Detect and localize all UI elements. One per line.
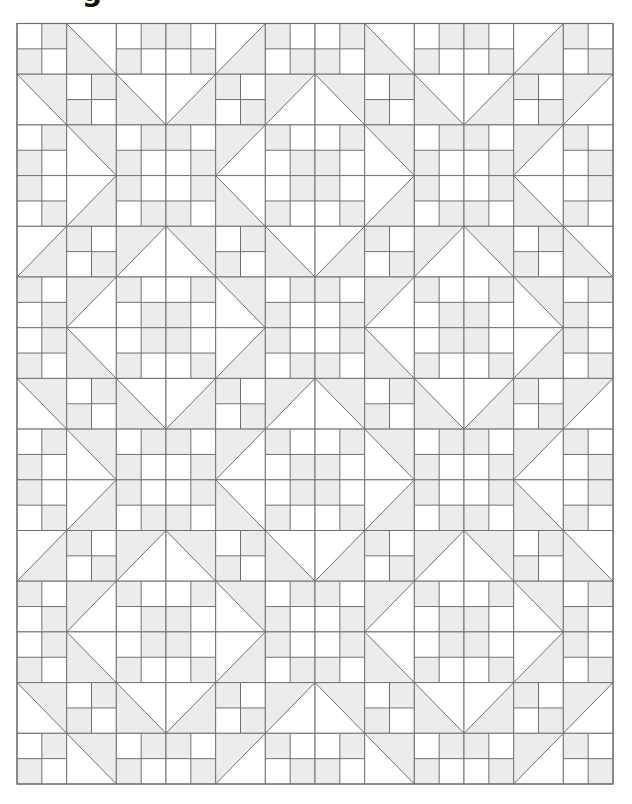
quilt-block	[265, 683, 315, 734]
quilt-block	[563, 733, 613, 784]
quilt-block	[315, 328, 365, 379]
quilt-block	[17, 176, 67, 227]
quilt-block	[414, 733, 464, 784]
quilt-block	[414, 125, 464, 176]
quilt-block	[464, 429, 514, 480]
quilt-block	[414, 480, 464, 531]
quilt-block	[67, 328, 117, 379]
quilt-block	[17, 378, 67, 429]
quilt-block	[116, 429, 166, 480]
quilt-block	[464, 733, 514, 784]
quilt-block	[166, 683, 216, 734]
quilt-block	[17, 733, 67, 784]
quilt-block	[216, 24, 266, 75]
quilt-block	[265, 480, 315, 531]
quilt-block	[17, 277, 67, 328]
quilt-block	[464, 226, 514, 277]
quilt-block	[315, 74, 365, 125]
quilt-block	[563, 581, 613, 632]
quilt-block	[563, 632, 613, 683]
quilt-block	[514, 378, 564, 429]
quilt-block	[365, 632, 415, 683]
quilt-block	[563, 226, 613, 277]
quilt-block	[67, 531, 117, 582]
quilt-block	[365, 125, 415, 176]
quilt-block	[265, 328, 315, 379]
quilt-block	[315, 277, 365, 328]
quilt-block	[563, 176, 613, 227]
quilt-block	[216, 125, 266, 176]
quilt-block	[67, 683, 117, 734]
quilt-block	[414, 277, 464, 328]
quilt-block	[67, 226, 117, 277]
quilt-block	[166, 480, 216, 531]
quilt-block	[315, 632, 365, 683]
quilt-block	[216, 632, 266, 683]
quilt-block	[464, 24, 514, 75]
quilt-block	[365, 277, 415, 328]
quilt-block	[315, 378, 365, 429]
quilt-block	[365, 226, 415, 277]
quilt-block	[17, 581, 67, 632]
quilt-block	[414, 176, 464, 227]
quilt-block	[265, 531, 315, 582]
quilt-block	[414, 378, 464, 429]
quilt-block	[17, 632, 67, 683]
quilt-block	[514, 176, 564, 227]
quilt-block	[464, 176, 514, 227]
quilt-block	[414, 226, 464, 277]
quilt-block	[414, 74, 464, 125]
quilt-block	[216, 581, 266, 632]
quilt-block	[265, 74, 315, 125]
quilt-block	[17, 125, 67, 176]
quilt-block	[67, 24, 117, 75]
quilt-block	[365, 74, 415, 125]
quilt-block	[315, 429, 365, 480]
quilt-block	[265, 632, 315, 683]
quilt-block	[514, 277, 564, 328]
quilt-block	[414, 429, 464, 480]
quilt-block	[116, 683, 166, 734]
quilt-block	[265, 125, 315, 176]
quilt-block	[365, 480, 415, 531]
quilt-block	[514, 24, 564, 75]
quilt-block	[116, 226, 166, 277]
quilt-block	[563, 328, 613, 379]
quilt-block	[464, 74, 514, 125]
quilt-block	[116, 531, 166, 582]
quilt-block	[166, 733, 216, 784]
quilt-block	[67, 581, 117, 632]
quilt-block	[414, 531, 464, 582]
quilt-block	[563, 480, 613, 531]
quilt-block	[315, 24, 365, 75]
quilt-block	[365, 733, 415, 784]
quilt-block	[563, 125, 613, 176]
quilt-block	[17, 480, 67, 531]
quilt-block	[116, 632, 166, 683]
quilt-block	[166, 24, 216, 75]
quilt-block	[116, 125, 166, 176]
quilt-block	[116, 24, 166, 75]
quilt-block	[514, 480, 564, 531]
quilt-block	[67, 176, 117, 227]
quilt-block	[514, 226, 564, 277]
quilt-block	[166, 378, 216, 429]
quilt-block	[17, 683, 67, 734]
quilt-block	[17, 74, 67, 125]
quilt-block	[265, 378, 315, 429]
quilt-block	[216, 480, 266, 531]
quilt-block	[116, 277, 166, 328]
quilt-block	[563, 74, 613, 125]
quilt-block	[17, 328, 67, 379]
quilt-block	[166, 581, 216, 632]
quilt-block	[166, 531, 216, 582]
quilt-block	[563, 531, 613, 582]
quilt-block	[315, 226, 365, 277]
quilt-block	[166, 176, 216, 227]
quilt-block	[17, 24, 67, 75]
quilt-diagram	[0, 0, 632, 804]
quilt-block	[216, 683, 266, 734]
quilt-block	[464, 632, 514, 683]
quilt-block	[67, 125, 117, 176]
quilt-block	[365, 429, 415, 480]
